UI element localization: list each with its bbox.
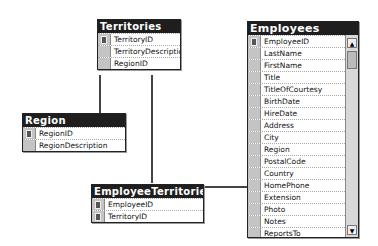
field-row[interactable]: RegionDescription: [23, 139, 125, 151]
row-selector: [248, 168, 261, 179]
field-row[interactable]: Address: [248, 119, 345, 131]
row-selector: [248, 96, 261, 107]
table-employee-territories[interactable]: EmployeeTerritories EmployeeID Territory…: [91, 184, 204, 223]
table-title[interactable]: Employees: [248, 22, 358, 35]
field-name: TerritoryID: [105, 211, 203, 222]
field-name: Country: [261, 168, 345, 179]
field-row[interactable]: BirthDate: [248, 95, 345, 107]
field-name: EmployeeID: [105, 199, 203, 210]
row-selector: [248, 204, 261, 215]
field-name: City: [261, 132, 345, 143]
primary-key-icon: [23, 128, 36, 139]
field-name: Photo: [261, 204, 345, 215]
row-selector: [248, 180, 261, 191]
field-row[interactable]: ReportsTo: [248, 227, 345, 238]
row-selector: [248, 84, 261, 95]
row-selector: [248, 108, 261, 119]
table-region[interactable]: Region RegionID RegionDescription: [22, 113, 126, 152]
row-selector: [248, 192, 261, 203]
row-selector: [98, 46, 111, 57]
field-name: Extension: [261, 192, 345, 203]
table-title[interactable]: Region: [23, 114, 125, 127]
field-row[interactable]: Country: [248, 167, 345, 179]
relationship-employees-employeeterritories: [203, 186, 247, 188]
relationship-region-territories: [99, 75, 101, 113]
field-row[interactable]: HomePhone: [248, 179, 345, 191]
field-name: RegionID: [111, 58, 180, 69]
field-row[interactable]: RegionID: [23, 127, 125, 139]
field-name: HireDate: [261, 108, 345, 119]
field-name: RegionID: [36, 128, 125, 139]
scroll-thumb[interactable]: [347, 51, 357, 69]
field-name: TerritoryDescription: [111, 46, 180, 57]
row-selector: [248, 72, 261, 83]
field-name: EmployeeID: [261, 36, 345, 47]
field-row[interactable]: RegionID: [98, 57, 180, 69]
field-row[interactable]: TitleOfCourtesy: [248, 83, 345, 95]
field-row[interactable]: LastName: [248, 47, 345, 59]
field-name: ReportsTo: [261, 228, 345, 238]
field-row[interactable]: TerritoryID: [98, 33, 180, 45]
field-name: PostalCode: [261, 156, 345, 167]
row-selector: [248, 48, 261, 59]
field-row[interactable]: TerritoryDescription: [98, 45, 180, 57]
field-name: Notes: [261, 216, 345, 227]
field-row[interactable]: TerritoryID: [92, 210, 203, 222]
scroll-up-icon[interactable]: ▲: [347, 38, 357, 48]
field-row[interactable]: City: [248, 131, 345, 143]
field-row[interactable]: PostalCode: [248, 155, 345, 167]
field-row[interactable]: Photo: [248, 203, 345, 215]
table-employees[interactable]: Employees EmployeeID LastName FirstName …: [247, 21, 359, 238]
row-selector: [248, 120, 261, 131]
primary-key-icon: [248, 36, 261, 47]
field-name: Address: [261, 120, 345, 131]
relationship-territories-employeeterritories: [151, 75, 153, 183]
field-row[interactable]: EmployeeID: [92, 198, 203, 210]
field-row[interactable]: FirstName: [248, 59, 345, 71]
row-selector: [23, 140, 36, 151]
row-selector: [248, 60, 261, 71]
field-row[interactable]: EmployeeID: [248, 35, 345, 47]
field-name: TerritoryID: [111, 34, 180, 45]
row-selector: [248, 228, 261, 238]
field-name: TitleOfCourtesy: [261, 84, 345, 95]
primary-key-icon: [92, 211, 105, 222]
field-name: BirthDate: [261, 96, 345, 107]
field-row[interactable]: Notes: [248, 215, 345, 227]
field-name: Region: [261, 144, 345, 155]
primary-key-icon: [98, 34, 111, 45]
row-selector: [98, 58, 111, 69]
row-selector: [248, 156, 261, 167]
field-name: FirstName: [261, 60, 345, 71]
row-selector: [248, 132, 261, 143]
field-row[interactable]: HireDate: [248, 107, 345, 119]
table-title[interactable]: Territories: [98, 20, 180, 33]
row-selector: [248, 144, 261, 155]
field-name: RegionDescription: [36, 140, 125, 151]
primary-key-icon: [92, 199, 105, 210]
field-name: LastName: [261, 48, 345, 59]
vertical-scrollbar[interactable]: ▲ ▼: [345, 35, 358, 237]
row-selector: [248, 216, 261, 227]
table-title[interactable]: EmployeeTerritories: [92, 185, 203, 198]
field-name: Title: [261, 72, 345, 83]
field-name: HomePhone: [261, 180, 345, 191]
scroll-down-icon[interactable]: ▼: [347, 225, 357, 235]
table-territories[interactable]: Territories TerritoryID TerritoryDescrip…: [97, 19, 181, 70]
field-row[interactable]: Region: [248, 143, 345, 155]
field-row[interactable]: Extension: [248, 191, 345, 203]
field-row[interactable]: Title: [248, 71, 345, 83]
